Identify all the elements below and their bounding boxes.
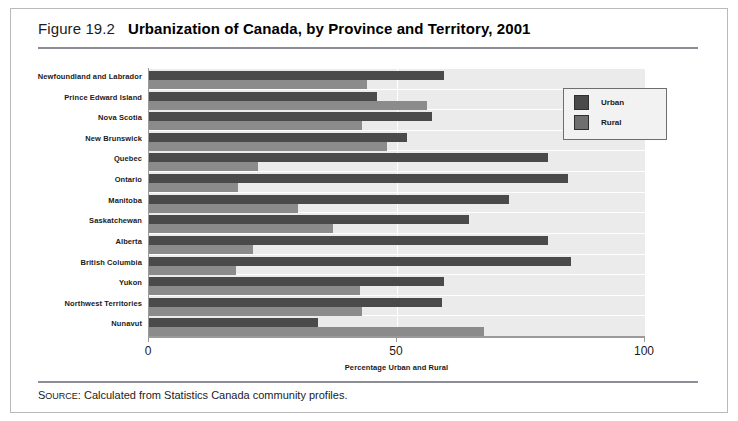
- bar-rural: [149, 307, 362, 316]
- bar-urban: [149, 215, 469, 224]
- x-axis-tick: [396, 336, 397, 342]
- bar-urban: [149, 92, 377, 101]
- bar-rural: [149, 121, 362, 130]
- legend-swatch-rural-icon: [574, 115, 589, 130]
- category-label: Nova Scotia: [98, 113, 142, 122]
- bar-urban: [149, 112, 432, 121]
- category-label: Manitoba: [108, 196, 142, 205]
- category-label: British Columbia: [80, 258, 142, 267]
- bar-rural: [149, 80, 367, 89]
- category-label: New Brunswick: [85, 134, 142, 143]
- bar-urban: [149, 257, 571, 266]
- category-label: Prince Edward Island: [64, 93, 142, 102]
- bar-urban: [149, 71, 444, 80]
- chart-legend: Urban Rural: [563, 88, 667, 140]
- title-divider: [38, 47, 698, 49]
- x-axis-tick-label: 50: [389, 344, 402, 358]
- figure-number: Figure 19.2: [38, 20, 115, 37]
- bar-rural: [149, 204, 298, 213]
- x-axis-tick: [644, 336, 645, 342]
- x-axis-tick-label: 0: [145, 344, 152, 358]
- category-label: Nunavut: [111, 319, 142, 328]
- bar-rural: [149, 101, 427, 110]
- category-label: Yukon: [119, 278, 142, 287]
- bar-rural: [149, 224, 333, 233]
- legend-label-rural: Rural: [601, 118, 621, 127]
- bar-rural: [149, 183, 238, 192]
- bar-urban: [149, 236, 548, 245]
- legend-item-urban: Urban: [574, 95, 666, 110]
- source-text: : Calculated from Statistics Canada comm…: [78, 389, 348, 401]
- bar-urban: [149, 133, 407, 142]
- category-label: Newfoundland and Labrador: [38, 72, 142, 81]
- figure-title-row: Figure 19.2 Urbanization of Canada, by P…: [38, 20, 698, 37]
- bar-urban: [149, 277, 444, 286]
- category-label: Ontario: [115, 175, 142, 184]
- category-label: Northwest Territories: [65, 299, 142, 308]
- bar-rural: [149, 245, 253, 254]
- bar-urban: [149, 318, 318, 327]
- bar-rural: [149, 142, 387, 151]
- source-note: SOURCE: Calculated from Statistics Canad…: [38, 389, 347, 401]
- source-divider: [38, 381, 698, 383]
- legend-swatch-urban-icon: [574, 95, 589, 110]
- bar-urban: [149, 174, 568, 183]
- category-label: Quebec: [114, 154, 142, 163]
- bar-rural: [149, 286, 360, 295]
- x-axis-tick: [148, 336, 149, 342]
- page-title: Urbanization of Canada, by Province and …: [128, 20, 531, 37]
- legend-label-urban: Urban: [601, 98, 624, 107]
- bar-rural: [149, 162, 258, 171]
- x-axis-tick-label: 100: [634, 344, 654, 358]
- bar-rural: [149, 266, 236, 275]
- category-label: Alberta: [115, 237, 142, 246]
- category-label: Saskatchewan: [89, 216, 142, 225]
- bar-urban: [149, 195, 509, 204]
- bar-urban: [149, 298, 442, 307]
- x-axis-title: Percentage Urban and Rural: [148, 363, 645, 372]
- legend-item-rural: Rural: [574, 115, 666, 130]
- category-axis-labels: Newfoundland and LabradorPrince Edward I…: [20, 68, 142, 336]
- figure-container: Figure 19.2 Urbanization of Canada, by P…: [0, 0, 738, 421]
- source-label: SOURCE: [38, 389, 78, 401]
- bar-urban: [149, 153, 548, 162]
